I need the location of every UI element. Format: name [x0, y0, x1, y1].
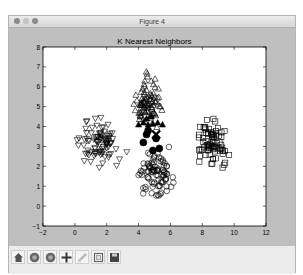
chart-title: K Nearest Neighbors	[117, 37, 191, 46]
y-tick-label: 5	[36, 103, 40, 110]
title-bar: Figure 4	[9, 16, 295, 28]
save-button[interactable]	[107, 250, 121, 264]
y-tick-label: 4	[36, 123, 40, 130]
pan-button[interactable]	[59, 250, 73, 264]
figure-canvas: K Nearest Neighbors−2024681012−101234567…	[9, 28, 295, 246]
x-tick-label: 0	[73, 229, 77, 236]
navigation-toolbar	[9, 246, 295, 274]
y-tick-label: −1	[33, 223, 41, 230]
y-tick-label: 3	[36, 143, 40, 150]
home-button[interactable]	[11, 250, 25, 264]
zoom-icon	[77, 252, 88, 263]
x-tick-label: −2	[39, 229, 47, 236]
x-tick-label: 4	[137, 229, 141, 236]
back-button[interactable]	[27, 250, 41, 264]
y-tick-label: 1	[36, 183, 40, 190]
x-tick-label: 6	[169, 229, 173, 236]
save-icon	[109, 252, 120, 263]
pan-icon	[61, 252, 72, 263]
x-tick-label: 10	[231, 229, 239, 236]
x-tick-label: 8	[200, 229, 204, 236]
window-title: Figure 4	[9, 16, 295, 27]
zoom-button[interactable]	[75, 250, 89, 264]
y-tick-label: 2	[36, 163, 40, 170]
y-tick-label: 7	[36, 63, 40, 70]
forward-icon	[45, 252, 56, 263]
subplots-icon	[93, 252, 104, 263]
y-tick-label: 6	[36, 83, 40, 90]
y-tick-label: 8	[36, 44, 40, 51]
scatter-plot: K Nearest Neighbors−2024681012−101234567…	[9, 28, 297, 246]
y-tick-label: 0	[36, 203, 40, 210]
x-tick-label: 12	[262, 229, 270, 236]
figure-window: Figure 4 K Nearest Neighbors−2024681012−…	[8, 15, 296, 273]
home-icon	[13, 252, 24, 263]
x-tick-label: 2	[105, 229, 109, 236]
configure-subplots-button[interactable]	[91, 250, 105, 264]
back-icon	[29, 252, 40, 263]
forward-button[interactable]	[43, 250, 57, 264]
